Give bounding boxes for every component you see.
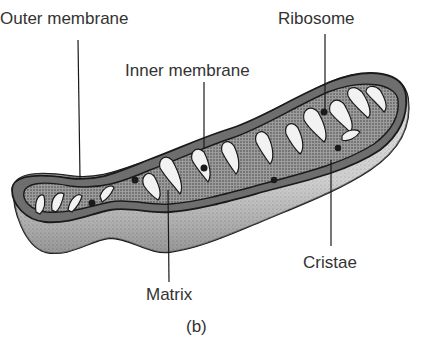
figure-caption: (b) [186,318,207,335]
outer-membrane-label: Outer membrane [0,10,129,27]
leader-outer-membrane [78,40,80,178]
cristae-label: Cristae [303,254,357,271]
mitochondrion-illustration [0,0,428,353]
inner-membrane-label: Inner membrane [125,62,250,79]
matrix-label: Matrix [146,286,192,303]
ribosome-label: Ribosome [278,10,355,27]
